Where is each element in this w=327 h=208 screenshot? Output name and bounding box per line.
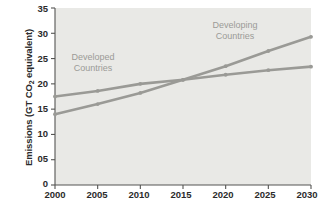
data-point-marker bbox=[96, 102, 100, 106]
data-point-marker bbox=[224, 73, 228, 77]
data-point-marker bbox=[96, 89, 100, 93]
data-point-marker bbox=[266, 68, 270, 72]
series-label-developing-line2: Countries bbox=[193, 31, 277, 42]
data-point-marker bbox=[53, 95, 57, 99]
data-point-marker bbox=[53, 112, 57, 116]
emissions-line-chart: Emissions (GT CO2 equivalent) 35 30 25 2… bbox=[0, 0, 327, 208]
data-point-marker bbox=[309, 35, 313, 39]
plot-area bbox=[0, 0, 327, 208]
data-point-marker bbox=[181, 78, 185, 82]
data-point-marker bbox=[309, 65, 313, 69]
data-point-marker bbox=[138, 82, 142, 86]
data-point-marker bbox=[224, 64, 228, 68]
data-point-marker bbox=[266, 49, 270, 53]
series-label-developing-line1: Developing bbox=[193, 20, 277, 31]
data-point-marker bbox=[138, 91, 142, 95]
series-label-developed: Developed Countries bbox=[57, 52, 129, 75]
series-label-developing: Developing Countries bbox=[193, 20, 277, 43]
series-label-developed-line1: Developed bbox=[57, 52, 129, 63]
series-label-developed-line2: Countries bbox=[57, 63, 129, 74]
